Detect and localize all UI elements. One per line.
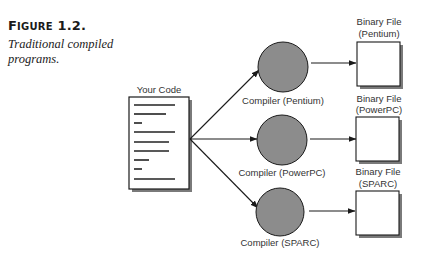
source-arrows	[190, 70, 259, 208]
compiler-label: Compiler (SPARC)	[240, 237, 319, 248]
compilation-diagram: Your Code Compiler (Pentium) Compiler (P…	[0, 0, 435, 260]
compiler-label: Compiler (PowerPC)	[238, 167, 325, 178]
binary-file-box	[356, 117, 399, 161]
binary-label-line1: Binary File	[357, 16, 402, 27]
binary-file-pentium: Binary File (Pentium)	[357, 16, 403, 89]
source-label: Your Code	[137, 84, 182, 95]
compiler-sparc: Compiler (SPARC)	[240, 188, 319, 248]
binary-label-line2: (SPARC)	[359, 178, 397, 189]
binary-file-box	[357, 42, 400, 86]
compiler-powerpc: Compiler (PowerPC)	[238, 115, 325, 178]
source-code-document: Your Code	[129, 84, 192, 192]
compiler-label: Compiler (Pentium)	[242, 95, 324, 106]
binary-label-line2: (Pentium)	[358, 28, 399, 39]
binary-label-line1: Binary File	[357, 93, 402, 104]
binary-label-line1: Binary File	[356, 166, 401, 177]
binary-file-powerpc: Binary File (PowerPC)	[356, 93, 402, 164]
compiler-circle-icon	[258, 42, 308, 92]
binary-file-box	[356, 191, 399, 235]
binary-file-sparc: Binary File (SPARC)	[356, 166, 402, 238]
compiler-circle-icon	[256, 188, 304, 236]
output-arrows	[309, 63, 356, 211]
document-page	[129, 97, 189, 189]
compiler-circle-icon	[257, 115, 307, 165]
binary-label-line2: (PowerPC)	[356, 104, 402, 115]
